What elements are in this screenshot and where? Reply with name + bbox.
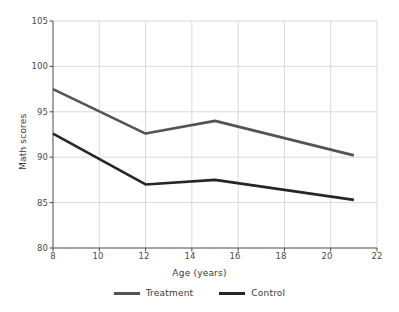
legend-label-treatment: Treatment [146,288,194,298]
y-tick-label-95: 95 [26,107,48,117]
legend-item-control[interactable]: Control [219,288,285,298]
y-axis-title: Math scores [18,114,28,170]
x-tick-label-18: 18 [271,251,291,261]
x-tick-label-10: 10 [88,251,108,261]
x-tick-label-12: 12 [134,251,154,261]
x-tick-label-20: 20 [317,251,337,261]
axis-lines [53,21,377,248]
legend-swatch-treatment [114,292,140,295]
x-axis-title: Age (years) [0,268,399,278]
legend-swatch-control [219,292,245,295]
y-tick-label-100: 100 [26,61,48,71]
gridlines [53,21,377,248]
axis-ticks [50,21,378,252]
plot-area [0,0,399,312]
data-series-lines [53,89,354,200]
y-tick-label-90: 90 [26,152,48,162]
legend-item-treatment[interactable]: Treatment [114,288,194,298]
y-tick-label-105: 105 [26,16,48,26]
y-tick-label-85: 85 [26,198,48,208]
legend-label-control: Control [251,288,285,298]
x-tick-label-16: 16 [225,251,245,261]
x-tick-label-8: 8 [43,251,63,261]
series-line-treatment [53,89,354,155]
x-tick-label-22: 22 [367,251,387,261]
x-tick-label-14: 14 [180,251,200,261]
chart-figure: 105 100 95 90 85 80 8 10 12 14 16 18 20 … [0,0,399,312]
chart-legend: Treatment Control [0,288,399,298]
